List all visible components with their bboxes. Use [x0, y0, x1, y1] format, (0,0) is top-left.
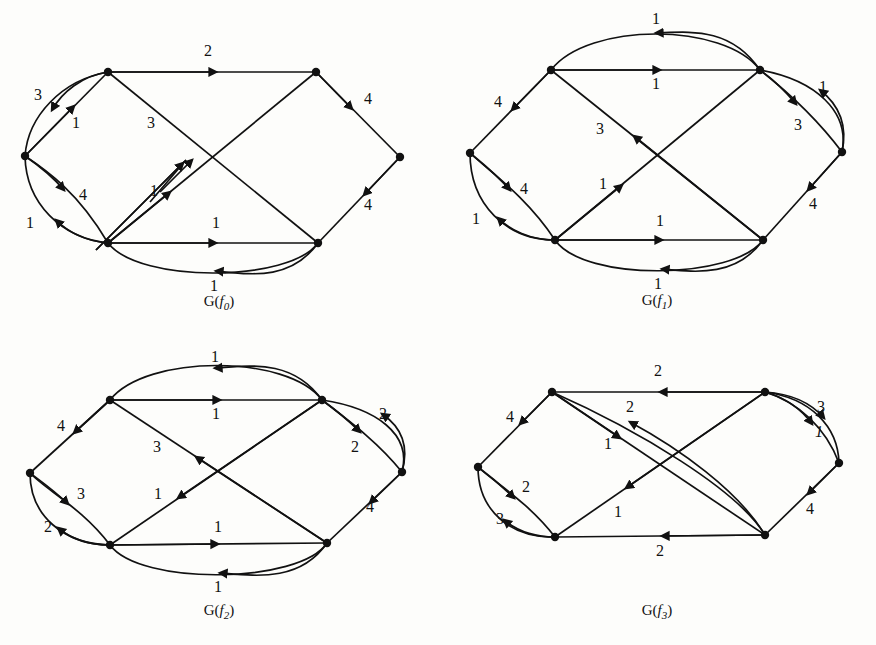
graph-drawing-g-f1: 1 1 4 4 1 3 1 3 1 4 1 1	[438, 0, 876, 330]
node-top-left	[548, 388, 556, 396]
arrow-left-to-bottom-left-curved	[478, 467, 514, 498]
edge-label: 1	[150, 182, 158, 199]
node-right	[835, 459, 843, 467]
graph-panel-g-f2: 1 1 4 3 2 3 1 2 2 4 1 1 G(f2)	[0, 330, 438, 645]
edge-label: 3	[77, 485, 85, 502]
arrow-top-left-to-bottom-right	[552, 392, 620, 438]
edge-label: 1	[652, 10, 660, 27]
edge-label: 3	[153, 438, 161, 455]
node-top-left	[106, 396, 114, 404]
edge-bottom-right-to-bottom-left-curved	[110, 543, 327, 575]
edge-bottom-right-to-bottom-left-curved	[555, 240, 763, 271]
arrow-bottom-right-to-bottom-left	[662, 535, 765, 536]
edge-label: 2	[656, 542, 664, 559]
edge-label: 1	[654, 275, 662, 292]
edge-right-to-top-right-curved	[322, 400, 404, 472]
caption-g: G(	[642, 602, 658, 618]
edge-label: 1	[214, 578, 222, 595]
arrow-bottom-right-to-bottom-left-curved	[220, 543, 327, 575]
edge-top-right-to-top-left-curved	[551, 34, 760, 70]
arrow-left-to-top-left	[25, 106, 74, 156]
edge-label: 1	[72, 114, 80, 131]
edge-right-to-top-right-curved	[760, 70, 843, 152]
arrow-right-to-bottom-right	[808, 463, 839, 494]
arrow-bottom-right-to-bottom-left-curved	[216, 243, 318, 274]
edge-label: 1	[212, 214, 220, 231]
edge-label: 1	[214, 518, 222, 535]
node-top-left	[104, 68, 112, 76]
panel-caption-g-f3: G(f3)	[438, 602, 876, 621]
edge-label: 1	[652, 75, 660, 92]
arrow-top-right-to-right	[322, 400, 360, 432]
arrow-right-to-bottom-right	[364, 157, 400, 195]
edge-label: 4	[494, 93, 502, 110]
node-bottom-left	[106, 541, 114, 549]
node-bottom-right	[323, 539, 331, 547]
graph-panel-g-f0: 2 3 1 4 1 3 1 4 4 1 1 G(f0)	[0, 0, 438, 330]
caption-close: )	[667, 292, 672, 308]
edge-bottom-left-to-left-curved	[470, 153, 555, 240]
edge-label: 4	[506, 408, 514, 425]
arrow-top-right-to-bottom-left	[178, 400, 322, 498]
edge-label: 2	[204, 42, 212, 59]
graph-panel-g-f1: 1 1 4 4 1 3 1 3 1 4 1 1 G(f1)	[438, 0, 876, 330]
graph-drawing-g-f0: 2 3 1 4 1 3 1 4 4 1 1	[0, 0, 438, 330]
node-right	[398, 468, 406, 476]
arrow-right-to-bottom-right	[808, 152, 842, 190]
arrow-top-left-to-left-curved	[52, 72, 108, 110]
node-bottom-left	[551, 533, 559, 541]
graph-drawing-g-f3: 2 2 1 4 2 3 1 3 1 4 2	[438, 330, 876, 645]
arrow-bottom-right-to-top-left	[634, 136, 763, 240]
node-top-right	[761, 388, 769, 396]
edge-label: 3	[496, 510, 504, 527]
edge-bottom-left-to-left-curved	[25, 156, 108, 243]
arrow-bottom-left-to-top-right	[555, 185, 622, 240]
edge-label: 2	[44, 518, 52, 535]
edge-label: 2	[522, 478, 530, 495]
edge-label: 1	[656, 212, 664, 229]
edge-label: 1	[210, 277, 218, 294]
node-right	[838, 148, 846, 156]
edge-label: 4	[79, 186, 87, 203]
node-top-right	[312, 68, 320, 76]
caption-close: )	[229, 293, 234, 309]
edge-labels-g-f1: 1 1 4 4 1 3 1 3 1 4 1 1	[472, 10, 827, 292]
arrow-left-to-bottom-left-curved	[470, 153, 510, 190]
edge-label: 2	[351, 438, 359, 455]
node-bottom-right	[761, 531, 769, 539]
edge-label: 1	[26, 214, 34, 231]
edge-left-to-bottom-left-curved	[30, 473, 110, 545]
edge-label: 3	[147, 114, 155, 131]
arrow-top-right-to-top-left-curved	[656, 32, 760, 70]
edge-label: 4	[809, 195, 817, 212]
edge-label: 4	[806, 500, 814, 517]
edge-top-right-to-right-b	[765, 392, 839, 463]
node-bottom-right	[759, 236, 767, 244]
figure-canvas: 2 3 1 4 1 3 1 4 4 1 1 G(f0)	[0, 0, 876, 645]
panel-caption-g-f1: G(f1)	[438, 292, 876, 311]
arrow-left-to-bottom-left-curved	[30, 473, 68, 504]
node-right	[396, 153, 404, 161]
edge-label: 1	[604, 435, 612, 452]
edge-label: 1	[472, 210, 480, 227]
edge-labels-g-f2: 1 1 4 3 2 3 1 2 2 4 1 1	[44, 348, 387, 595]
edge-label: 2	[626, 398, 634, 415]
edge-label: 1	[212, 405, 220, 422]
edge-label: 1	[599, 175, 607, 192]
graph-drawing-g-f2: 1 1 4 3 2 3 1 2 2 4 1 1	[0, 330, 438, 645]
caption-g: G(	[642, 292, 658, 308]
graph-panel-g-f3: 2 2 1 4 2 3 1 3 1 4 2 G(f3)	[438, 330, 876, 645]
node-left	[466, 149, 474, 157]
edge-label: 1	[154, 485, 162, 502]
caption-g: G(	[204, 602, 220, 618]
node-bottom-left	[551, 236, 559, 244]
arrow-right-to-top-right-curved	[382, 414, 405, 472]
arrow-bottom-right-to-bottom-left-curved	[662, 240, 763, 271]
arrow-bottom-left-to-bottom-right	[110, 544, 218, 545]
edge-left-to-bottom-left-curved	[478, 467, 555, 537]
arrow-top-right-to-right	[316, 72, 352, 109]
arrow-top-right-to-right	[760, 70, 796, 104]
node-top-left	[547, 66, 555, 74]
node-left	[21, 152, 29, 160]
caption-close: )	[667, 602, 672, 618]
